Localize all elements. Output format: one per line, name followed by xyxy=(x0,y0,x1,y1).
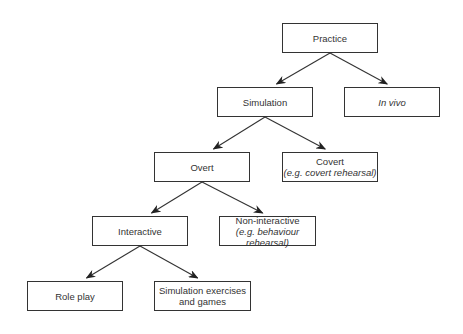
node-sublabel: (e.g. covert rehearsal) xyxy=(284,167,377,178)
arrow-overt-to-interactive xyxy=(152,182,202,213)
node-label: Simulation exercises xyxy=(159,285,246,296)
arrow-simulation-to-overt xyxy=(214,117,265,149)
arrow-simulation-to-covert xyxy=(265,117,325,149)
node-covert: Covert(e.g. covert rehearsal) xyxy=(282,152,378,182)
arrow-practice-to-simulation xyxy=(277,53,330,84)
node-in-vivo: In vivo xyxy=(344,87,440,117)
node-label: In vivo xyxy=(378,97,405,108)
node-label: Non-interactive xyxy=(236,215,300,226)
node-sublabel: (e.g. behaviour rehearsal) xyxy=(220,226,315,248)
node-label: Overt xyxy=(190,162,213,173)
node-practice: Practice xyxy=(282,23,378,53)
node-simulation: Simulation xyxy=(217,87,313,117)
node-label: Interactive xyxy=(118,226,162,237)
node-label: Practice xyxy=(313,33,347,44)
arrow-interactive-to-sim-exercises xyxy=(140,246,198,278)
node-overt: Overt xyxy=(154,152,250,182)
arrow-practice-to-in-vivo xyxy=(330,53,387,84)
node-label: Simulation xyxy=(243,97,287,108)
node-role-play: Role play xyxy=(27,281,123,311)
arrow-interactive-to-role-play xyxy=(87,246,140,278)
arrow-overt-to-non-interactive xyxy=(202,182,263,213)
node-sim-exercises: Simulation exercisesand games xyxy=(154,281,251,311)
node-label: Role play xyxy=(55,291,95,302)
node-label: Covert xyxy=(316,156,344,167)
node-sublabel: and games xyxy=(179,296,226,307)
node-non-interactive: Non-interactive(e.g. behaviour rehearsal… xyxy=(219,216,316,246)
node-interactive: Interactive xyxy=(92,216,188,246)
